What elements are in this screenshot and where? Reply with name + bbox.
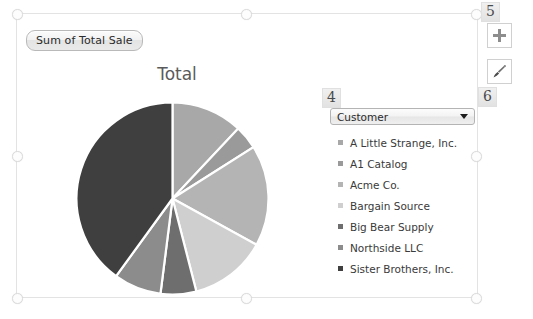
legend-swatch-icon — [338, 161, 343, 166]
legend-swatch-icon — [338, 140, 343, 145]
legend-list: A Little Strange, Inc.A1 CatalogAcme Co.… — [330, 132, 475, 279]
field-button-sum-of-total-sale[interactable]: Sum of Total Sale — [26, 30, 143, 51]
selection-handle-top-left[interactable] — [12, 9, 23, 20]
callout-number-4: 4 — [322, 88, 341, 108]
selection-handle-top-right[interactable] — [471, 9, 482, 20]
legend-item[interactable]: Big Bear Supply — [330, 216, 475, 237]
legend-item-label: Bargain Source — [350, 200, 430, 212]
legend-item[interactable]: Sister Brothers, Inc. — [330, 258, 475, 279]
legend-item[interactable]: A1 Catalog — [330, 153, 475, 174]
pie-chart[interactable] — [75, 101, 270, 296]
selection-handle-bottom-center[interactable] — [241, 293, 252, 304]
selection-handle-middle-left[interactable] — [12, 151, 23, 162]
legend-item-label: Northside LLC — [350, 242, 423, 254]
selection-handle-bottom-right[interactable] — [471, 293, 482, 304]
legend-panel: Customer A Little Strange, Inc.A1 Catalo… — [330, 108, 475, 279]
selection-handle-bottom-left[interactable] — [12, 293, 23, 304]
filter-dropdown-label: Customer — [337, 111, 456, 123]
chart-styles-button[interactable] — [487, 59, 512, 84]
legend-item-label: Sister Brothers, Inc. — [350, 263, 454, 275]
plus-icon — [493, 29, 506, 42]
legend-swatch-icon — [338, 182, 343, 187]
chart-object-frame[interactable]: Sum of Total Sale Total Customer A Littl… — [16, 13, 478, 298]
chart-title[interactable]: Total — [17, 64, 337, 84]
chart-elements-button[interactable] — [487, 23, 512, 48]
field-button-label: Sum of Total Sale — [36, 34, 133, 47]
selection-handle-top-center[interactable] — [241, 9, 252, 20]
legend-item[interactable]: Acme Co. — [330, 174, 475, 195]
legend-item-label: A1 Catalog — [350, 158, 408, 170]
legend-item-label: Acme Co. — [350, 179, 400, 191]
selection-handle-middle-right[interactable] — [471, 151, 482, 162]
legend-item-label: A Little Strange, Inc. — [350, 137, 457, 149]
legend-swatch-icon — [338, 245, 343, 250]
chevron-down-icon — [460, 114, 468, 119]
legend-swatch-icon — [338, 266, 343, 271]
legend-item[interactable]: Northside LLC — [330, 237, 475, 258]
filter-dropdown-customer[interactable]: Customer — [330, 108, 475, 125]
legend-swatch-icon — [338, 203, 343, 208]
callout-number-5: 5 — [481, 2, 500, 22]
pie-chart-svg — [75, 101, 270, 296]
legend-item[interactable]: Bargain Source — [330, 195, 475, 216]
legend-swatch-icon — [338, 224, 343, 229]
legend-item-label: Big Bear Supply — [350, 221, 434, 233]
callout-number-6: 6 — [478, 87, 497, 107]
paintbrush-icon — [492, 64, 507, 79]
legend-item[interactable]: A Little Strange, Inc. — [330, 132, 475, 153]
